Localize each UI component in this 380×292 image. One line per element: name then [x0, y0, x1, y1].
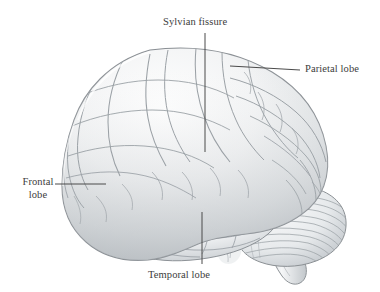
label-sylvian-fissure: Sylvian fissure [163, 15, 227, 28]
brain-diagram-figure [0, 0, 380, 292]
label-temporal-lobe: Temporal lobe [148, 268, 210, 281]
label-parietal-lobe: Parietal lobe [305, 62, 359, 75]
label-frontal-lobe: Frontal lobe [12, 175, 64, 201]
